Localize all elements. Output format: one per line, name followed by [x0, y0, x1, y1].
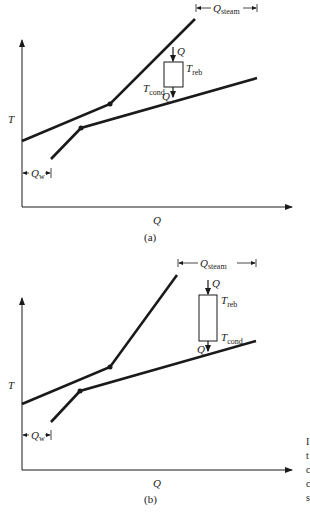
svg-text:c: c: [306, 478, 310, 489]
t-reb-label: Treb: [186, 62, 202, 77]
svg-text:I: I: [306, 436, 309, 447]
pinch-point-hot: [108, 102, 113, 107]
panel-caption: (a): [144, 231, 157, 244]
pinch-point-hot: [108, 365, 113, 370]
y-axis-label: T: [8, 113, 15, 125]
svg-text:t: t: [306, 450, 309, 461]
panel-a: Q Q Treb Tcond Qsteam Qw T Q (a): [8, 2, 292, 244]
panel-b: Q Q Treb Tcond Qsteam Qw T Q (b): [8, 257, 292, 506]
heat-engine-box: [199, 295, 217, 341]
y-axis-label: T: [8, 379, 15, 391]
svg-text:s: s: [306, 492, 310, 503]
heat-engine-box: [164, 62, 183, 87]
heat-out-label: Q: [197, 343, 205, 355]
svg-text:c: c: [306, 464, 310, 475]
clipped-caption-text: I t c c s: [306, 436, 310, 503]
heat-in-label: Q: [177, 45, 185, 57]
t-cond-label: Tcond: [221, 331, 243, 346]
panel-caption: (b): [144, 493, 157, 506]
q-steam-label: Qsteam: [200, 257, 227, 271]
heat-in-label: Q: [212, 277, 220, 289]
pinch-point-cold: [79, 126, 84, 131]
t-reb-label: Treb: [221, 294, 237, 309]
x-axis-label: Q: [153, 214, 161, 226]
t-cond-label: Tcond: [143, 82, 165, 97]
q-w-label: Qw: [31, 167, 45, 181]
q-w-label: Qw: [31, 429, 45, 443]
q-steam-label: Qsteam: [213, 2, 240, 16]
pinch-point-cold: [78, 389, 83, 394]
x-axis-label: Q: [153, 477, 161, 489]
cold-composite-curve: [51, 341, 256, 422]
grand-composite-curve-figure: Q Q Treb Tcond Qsteam Qw T Q (a): [0, 0, 310, 516]
